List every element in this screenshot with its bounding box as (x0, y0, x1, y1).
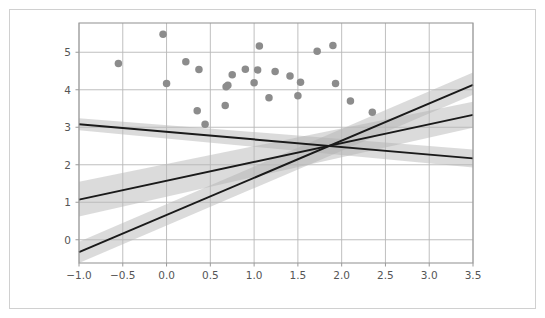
y-tick-label: 3 (64, 121, 71, 133)
regression-lines (79, 85, 473, 252)
y-axis-tick-labels: 012345 (64, 46, 79, 246)
scatter-point (250, 79, 258, 87)
scatter-point (297, 79, 305, 87)
x-tick-label: 2.5 (377, 269, 394, 281)
figure-container: −1.0−0.50.00.51.01.52.02.53.03.5 012345 (0, 0, 545, 318)
scatter-point (369, 109, 377, 117)
x-tick-label: 3.5 (465, 269, 482, 281)
scatter-point (329, 42, 337, 50)
scatter-point (193, 107, 201, 115)
x-tick-label: 0.0 (158, 269, 175, 281)
scatter-point (242, 65, 250, 73)
scatter-point (163, 80, 171, 88)
regression-line-3 (79, 85, 473, 252)
scatter-points (115, 31, 376, 129)
x-axis-tick-labels: −1.0−0.50.00.51.01.52.02.53.03.5 (66, 263, 481, 281)
scatter-point (159, 31, 167, 39)
scatter-point (254, 66, 262, 74)
scatter-point (294, 92, 302, 100)
scatter-point (201, 121, 209, 129)
x-tick-label: 3.0 (421, 269, 438, 281)
scatter-point (256, 42, 264, 50)
scatter-point (265, 94, 273, 102)
scatter-point (271, 68, 279, 76)
y-tick-label: 4 (64, 84, 71, 96)
x-tick-label: 0.5 (202, 269, 219, 281)
scatter-point (286, 72, 294, 80)
scatter-point (347, 97, 355, 105)
scatter-point (182, 58, 190, 66)
x-tick-label: 1.0 (246, 269, 263, 281)
scatter-plot: −1.0−0.50.00.51.01.52.02.53.03.5 012345 (0, 0, 545, 318)
scatter-point (332, 80, 340, 88)
y-tick-label: 5 (64, 46, 71, 58)
scatter-point (228, 71, 236, 79)
x-tick-label: −1.0 (66, 269, 92, 281)
scatter-point (313, 47, 321, 55)
scatter-point (115, 60, 123, 68)
x-tick-label: 1.5 (290, 269, 307, 281)
scatter-point (221, 102, 229, 110)
y-tick-label: 1 (64, 196, 71, 208)
x-tick-label: 2.0 (333, 269, 350, 281)
x-tick-label: −0.5 (110, 269, 136, 281)
y-tick-label: 2 (64, 159, 71, 171)
y-tick-label: 0 (64, 234, 71, 246)
scatter-point (224, 82, 232, 90)
scatter-point (195, 66, 203, 74)
